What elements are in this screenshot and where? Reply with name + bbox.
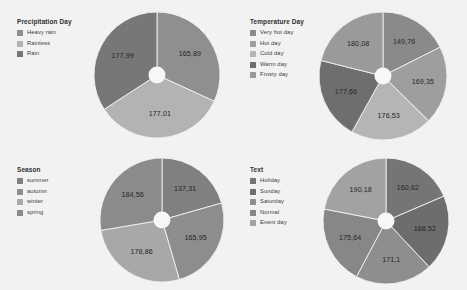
legend-item[interactable]: Heavy rain bbox=[17, 30, 72, 36]
legend-title: Season bbox=[17, 166, 49, 173]
chart-panel-precipitation-day: Precipitation Day Heavy rainRainlessRain… bbox=[0, 0, 233, 148]
legend-item[interactable]: spring bbox=[17, 210, 49, 216]
pie-chart-dashboard: Precipitation Day Heavy rainRainlessRain… bbox=[0, 0, 467, 290]
legend-color-swatch bbox=[250, 72, 256, 78]
pie-slice-value-label: 190,18 bbox=[350, 186, 372, 194]
legend-item[interactable]: Event day bbox=[250, 220, 287, 226]
legend-item-label: Event day bbox=[260, 220, 287, 226]
legend-item-label: Very hot day bbox=[260, 30, 293, 36]
pie-slice-value-label: 177,01 bbox=[149, 110, 171, 118]
donut-center-hole bbox=[378, 213, 395, 230]
legend-item[interactable]: Warm day bbox=[250, 62, 304, 68]
pie-slice-value-label: 180,08 bbox=[347, 40, 369, 48]
donut-center-hole bbox=[149, 67, 166, 84]
legend-item[interactable]: Frosty day bbox=[250, 72, 304, 78]
pie-slice-value-label: 137,31 bbox=[174, 185, 196, 193]
pie-slice-value-label: 171,1 bbox=[382, 256, 400, 264]
donut-chart-temperature-day[interactable]: 149,76169,35176,53177,66180,08 bbox=[317, 10, 449, 142]
legend-item-label: Rainless bbox=[27, 41, 50, 47]
legend-precipitation-day: Precipitation Day Heavy rainRainlessRain bbox=[17, 18, 72, 62]
chart-panel-season: Season summerautumnwinterspring 137,3116… bbox=[0, 148, 233, 290]
donut-chart-text[interactable]: 160,62168,52171,1175,64190,18 bbox=[321, 156, 451, 286]
legend-color-swatch bbox=[250, 178, 256, 184]
donut-svg: 137,31165,95178,86184,56 bbox=[98, 156, 226, 284]
pie-slice-value-label: 177,99 bbox=[112, 52, 134, 60]
pie-slice-value-label: 184,56 bbox=[121, 191, 143, 199]
legend-item-label: Normal bbox=[260, 210, 279, 216]
legend-color-swatch bbox=[250, 51, 256, 57]
pie-slice-value-label: 168,52 bbox=[414, 225, 436, 233]
legend-items: HolidaySundaySaturdayNormalEvent day bbox=[250, 178, 287, 226]
legend-item[interactable]: autumn bbox=[17, 189, 49, 195]
legend-item[interactable]: summer bbox=[17, 178, 49, 184]
pie-slice-value-label: 177,66 bbox=[335, 88, 357, 96]
legend-season: Season summerautumnwinterspring bbox=[17, 166, 49, 220]
legend-item[interactable]: Sunday bbox=[250, 189, 287, 195]
legend-color-swatch bbox=[17, 41, 23, 47]
legend-color-swatch bbox=[17, 189, 23, 195]
legend-items: Very hot dayHot dayCold dayWarm dayFrost… bbox=[250, 30, 304, 78]
legend-color-swatch bbox=[17, 210, 23, 216]
donut-center-hole bbox=[154, 212, 171, 229]
legend-temperature-day: Temperature Day Very hot dayHot dayCold … bbox=[250, 18, 304, 83]
legend-item[interactable]: Cold day bbox=[250, 51, 304, 57]
legend-item-label: Saturday bbox=[260, 199, 284, 205]
legend-title: Temperature Day bbox=[250, 18, 304, 25]
legend-item-label: Cold day bbox=[260, 51, 284, 57]
donut-svg: 165,89177,01177,99 bbox=[92, 10, 222, 140]
legend-color-swatch bbox=[250, 189, 256, 195]
legend-items: summerautumnwinterspring bbox=[17, 178, 49, 216]
legend-color-swatch bbox=[17, 178, 23, 184]
legend-item-label: autumn bbox=[27, 189, 47, 195]
legend-text: Text HolidaySundaySaturdayNormalEvent da… bbox=[250, 166, 287, 231]
legend-item[interactable]: Rain bbox=[17, 51, 72, 57]
donut-svg: 149,76169,35176,53177,66180,08 bbox=[317, 10, 449, 142]
donut-center-hole bbox=[375, 68, 392, 85]
legend-item[interactable]: Normal bbox=[250, 210, 287, 216]
legend-item-label: winter bbox=[27, 199, 43, 205]
legend-item[interactable]: Rainless bbox=[17, 41, 72, 47]
legend-item[interactable]: Very hot day bbox=[250, 30, 304, 36]
chart-panel-temperature-day: Temperature Day Very hot dayHot dayCold … bbox=[233, 0, 467, 148]
legend-color-swatch bbox=[250, 62, 256, 68]
legend-item-label: Hot day bbox=[260, 41, 281, 47]
legend-color-swatch bbox=[17, 30, 23, 36]
legend-item-label: summer bbox=[27, 178, 49, 184]
legend-item-label: Sunday bbox=[260, 189, 280, 195]
legend-item-label: Heavy rain bbox=[27, 30, 56, 36]
pie-slice-value-label: 169,35 bbox=[412, 78, 434, 86]
pie-slice-value-label: 165,95 bbox=[184, 234, 206, 242]
donut-svg: 160,62168,52171,1175,64190,18 bbox=[321, 156, 451, 286]
legend-title: Text bbox=[250, 166, 287, 173]
legend-color-swatch bbox=[250, 41, 256, 47]
legend-color-swatch bbox=[250, 30, 256, 36]
pie-slice-value-label: 149,76 bbox=[393, 38, 415, 46]
pie-slice-value-label: 178,86 bbox=[130, 248, 152, 256]
legend-item-label: Holiday bbox=[260, 178, 280, 184]
legend-item-label: spring bbox=[27, 210, 43, 216]
donut-chart-precipitation-day[interactable]: 165,89177,01177,99 bbox=[92, 10, 222, 140]
legend-item-label: Rain bbox=[27, 51, 39, 57]
legend-item-label: Warm day bbox=[260, 62, 287, 68]
legend-color-swatch bbox=[250, 210, 256, 216]
legend-color-swatch bbox=[250, 199, 256, 205]
legend-color-swatch bbox=[17, 199, 23, 205]
chart-panel-text: Text HolidaySundaySaturdayNormalEvent da… bbox=[233, 148, 467, 290]
legend-items: Heavy rainRainlessRain bbox=[17, 30, 72, 57]
donut-chart-season[interactable]: 137,31165,95178,86184,56 bbox=[98, 156, 226, 284]
legend-item[interactable]: Saturday bbox=[250, 199, 287, 205]
legend-color-swatch bbox=[17, 51, 23, 57]
legend-title: Precipitation Day bbox=[17, 18, 72, 25]
pie-slice-value-label: 175,64 bbox=[339, 234, 361, 242]
pie-slice-value-label: 160,62 bbox=[397, 184, 419, 192]
pie-slice-value-label: 165,89 bbox=[179, 50, 201, 58]
legend-item[interactable]: Hot day bbox=[250, 41, 304, 47]
legend-item[interactable]: winter bbox=[17, 199, 49, 205]
pie-slice-value-label: 176,53 bbox=[378, 112, 400, 120]
legend-color-swatch bbox=[250, 220, 256, 226]
legend-item-label: Frosty day bbox=[260, 72, 288, 78]
legend-item[interactable]: Holiday bbox=[250, 178, 287, 184]
